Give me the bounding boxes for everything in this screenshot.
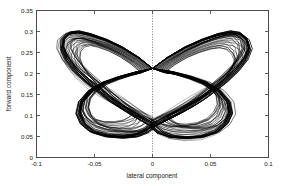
x-tick-label: 0.05 [204,160,217,167]
trajectory-plot: -0.1-0.0500.050.100.050.10.150.20.250.30… [0,0,283,186]
x-axis-label: lateral component [127,172,178,180]
y-tick-label: 0.05 [21,133,34,140]
x-tick-label: 0 [151,160,155,167]
y-tick-label: 0.1 [24,112,33,119]
figure-container: -0.1-0.0500.050.100.050.10.150.20.250.30… [0,0,283,186]
y-tick-label: 0.35 [21,7,34,14]
x-tick-label: -0.1 [31,160,42,167]
y-tick-label: 0.25 [21,49,34,56]
y-tick-label: 0.3 [24,28,33,35]
x-tick-label: 0.1 [264,160,273,167]
x-tick-label: -0.05 [87,160,102,167]
plot-background [0,0,283,186]
y-axis-label: forward component [5,56,13,111]
y-tick-label: 0.2 [24,70,33,77]
y-tick-label: 0.15 [21,91,34,98]
y-tick-label: 0 [30,154,34,161]
